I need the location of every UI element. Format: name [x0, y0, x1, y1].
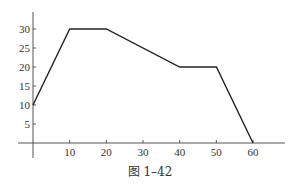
y-tick-label: 25	[19, 42, 31, 54]
x-tick-label: 20	[101, 146, 113, 158]
y-tick-label: 20	[19, 61, 31, 73]
axis-ticks	[33, 29, 253, 143]
y-tick-label: 30	[19, 23, 31, 35]
y-tick-label: 5	[25, 118, 31, 130]
x-tick-labels: 102030405060	[64, 146, 259, 158]
axes	[18, 12, 285, 158]
data-line	[33, 29, 253, 143]
y-tick-labels: 51015202530	[19, 23, 31, 130]
x-tick-label: 50	[211, 146, 223, 158]
y-tick-label: 10	[19, 99, 31, 111]
y-tick-label: 15	[19, 80, 31, 92]
x-tick-label: 10	[64, 146, 76, 158]
x-tick-label: 30	[138, 146, 150, 158]
line-chart: 102030405060 51015202530	[0, 0, 300, 188]
x-tick-label: 60	[248, 146, 260, 158]
figure-caption: 图 1–42	[0, 162, 300, 179]
x-tick-label: 40	[174, 146, 186, 158]
